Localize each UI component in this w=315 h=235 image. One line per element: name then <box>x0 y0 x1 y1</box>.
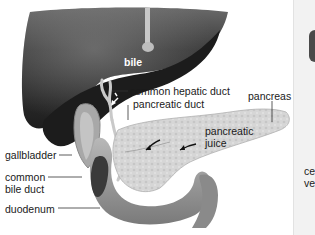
label-pancreas: pancreas <box>248 90 291 102</box>
label-bile: bile <box>124 56 142 68</box>
label-pancreatic-duct: pancreatic duct <box>133 98 204 110</box>
label-duodenum: duodenum <box>5 203 55 215</box>
label-common-bile-duct-line2: bile duct <box>5 183 44 195</box>
label-pancreatic-juice-line2: juice <box>205 137 227 149</box>
anatomy-illustration <box>0 0 315 235</box>
label-common-bile-duct-line1: common <box>5 171 45 183</box>
side-panel-text-line2: ve <box>304 177 315 189</box>
adjacent-organ-shape <box>309 30 315 62</box>
label-pancreatic-juice-line1: pancreatic <box>205 125 253 137</box>
side-panel-text-line1: ce <box>304 165 315 177</box>
label-common-hepatic-duct: common hepatic duct <box>130 85 230 97</box>
anatomy-figure: bile common hepatic duct pancreatic duct… <box>0 0 315 235</box>
label-gallbladder: gallbladder <box>5 149 56 161</box>
